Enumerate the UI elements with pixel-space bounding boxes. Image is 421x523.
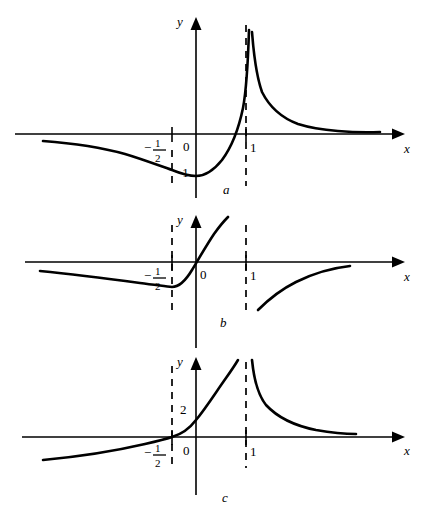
panel-b-tick-label-one: 1 — [250, 268, 257, 283]
function-graphs-figure: y x 0 1 − 1 2 −1 a y x 0 1 — [0, 0, 421, 523]
panel-b: y x 0 1 − 1 2 b — [0, 200, 421, 350]
panel-a-neg-half-sign: − — [144, 140, 151, 155]
panel-c-tick-label-neg-half: − 1 2 — [144, 442, 166, 469]
panel-a-y-axis-arrowhead — [191, 17, 202, 30]
panel-c-tick-label-one: 1 — [250, 444, 257, 459]
panel-a-neg-half-denominator: 2 — [155, 152, 161, 164]
panel-a-y-axis-label: y — [175, 14, 183, 29]
panel-c-y-axis-label: y — [175, 354, 183, 369]
panel-b-curve-right — [258, 266, 350, 310]
panel-a-tick-label-zero: 0 — [183, 139, 190, 154]
panel-a-caption: a — [223, 182, 230, 197]
panel-c-neg-half-numerator: 1 — [155, 442, 161, 454]
panel-b-tick-label-zero: 0 — [200, 267, 207, 282]
panel-c-y-axis-arrowhead — [191, 357, 202, 370]
panel-c-neg-half-denominator: 2 — [155, 457, 161, 469]
panel-a: y x 0 1 − 1 2 −1 a — [0, 0, 421, 200]
panel-a-curve-right — [252, 32, 380, 132]
panel-b-y-axis-arrowhead — [191, 215, 202, 228]
panel-a-neg-half-numerator: 1 — [155, 137, 161, 149]
panel-c-caption: c — [222, 490, 228, 505]
panel-a-x-axis-arrowhead — [392, 129, 405, 140]
panel-c-x-axis-arrowhead — [392, 432, 405, 443]
panel-c-y-tick-label-two: 2 — [180, 402, 187, 417]
panel-c-x-axis-label: x — [403, 443, 410, 458]
panel-a-tick-label-one: 1 — [250, 140, 257, 155]
panel-b-caption: b — [220, 315, 227, 330]
panel-a-y-tick-label-neg-one: −1 — [175, 165, 189, 180]
panel-c-curve-left — [43, 360, 238, 460]
panel-b-tick-label-neg-half: − 1 2 — [144, 265, 166, 292]
panel-c-tick-label-zero: 0 — [183, 443, 190, 458]
panel-b-neg-half-numerator: 1 — [155, 265, 161, 277]
panel-b-x-axis-label: x — [403, 269, 410, 284]
panel-c-neg-half-sign: − — [144, 445, 151, 460]
panel-b-y-axis-label: y — [175, 212, 183, 227]
panel-c: y x 0 1 2 − 1 2 c — [0, 350, 421, 523]
panel-b-neg-half-denominator: 2 — [155, 280, 161, 292]
panel-b-neg-half-sign: − — [144, 268, 151, 283]
panel-b-x-axis-arrowhead — [392, 257, 405, 268]
panel-c-curve-right — [252, 360, 356, 434]
panel-a-x-axis-label: x — [403, 141, 410, 156]
